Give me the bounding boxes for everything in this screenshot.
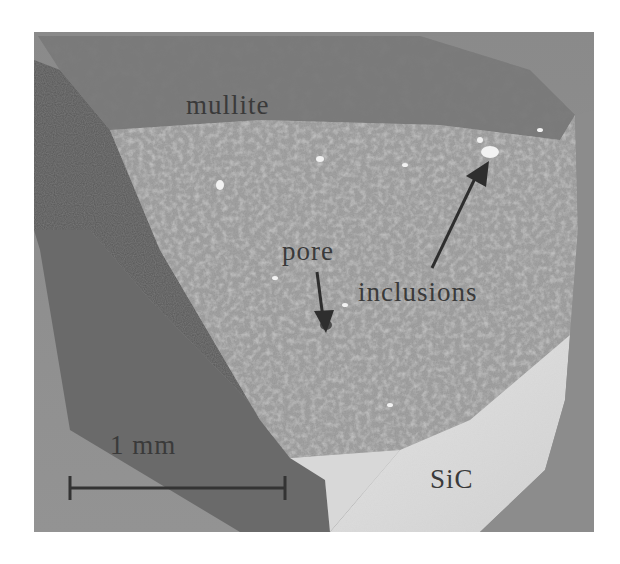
label-sic: SiC	[430, 464, 474, 494]
label-inclusions: inclusions	[358, 277, 478, 307]
scale-bar-label: 1 mm	[110, 430, 176, 460]
micrograph-figure: mullite pore inclusions SiC 1 mm	[0, 0, 620, 564]
label-mullite: mullite	[186, 90, 270, 120]
label-pore: pore	[282, 236, 334, 266]
